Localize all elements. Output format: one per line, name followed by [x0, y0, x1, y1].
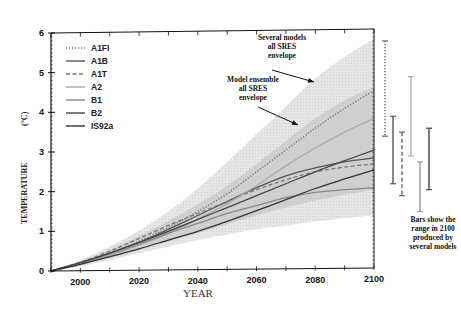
- annotation-text: envelope: [239, 93, 268, 102]
- annotation-text: Model ensemble: [227, 75, 280, 84]
- annotation-text: envelope: [268, 51, 297, 60]
- annotation-text: range in 2100: [411, 224, 455, 233]
- y-tick-label: 6: [39, 28, 44, 38]
- y-tick-label: 4: [39, 107, 44, 117]
- x-tick-label: 2080: [305, 275, 325, 285]
- y-tick-label: 5: [39, 68, 44, 78]
- x-tick-label: 2060: [247, 275, 267, 285]
- x-tick-label: 2020: [129, 276, 149, 286]
- y-axis-unit: (°C): [20, 111, 29, 126]
- x-tick-label: 2000: [70, 277, 90, 287]
- x-axis-title: YEAR: [183, 287, 214, 299]
- legend-label-b1: B1: [91, 95, 102, 105]
- legend-label-a1t: A1T: [91, 69, 108, 79]
- legend-label-b2: B2: [91, 108, 102, 118]
- legend-label-a2: A2: [91, 82, 102, 92]
- legend: A1FIA1BA1TA2B1B2IS92a: [66, 43, 113, 131]
- x-axis-line: [51, 268, 374, 271]
- legend-label-is92a: IS92a: [91, 121, 113, 131]
- temperature-projection-chart: 0123456200020202040206020802100 A1FIA1BA…: [0, 0, 461, 312]
- annotation-text: Bars show the: [410, 215, 456, 224]
- arrowhead-icon: [308, 78, 314, 83]
- annotation-text: all SRES: [268, 42, 297, 51]
- y-tick-label: 1: [39, 226, 44, 236]
- annotation-text: produced by: [413, 233, 453, 242]
- y-axis-title: TEMPERATURE: [20, 162, 29, 224]
- annotation-text: Several models: [258, 33, 306, 42]
- y-tick-label: 2: [39, 187, 44, 197]
- annotation-text: several models: [410, 242, 457, 251]
- x-tick-label: 2100: [364, 274, 384, 284]
- y-tick-label: 3: [39, 147, 44, 157]
- legend-label-a1b: A1B: [91, 56, 108, 66]
- y-tick-label: 0: [39, 266, 44, 276]
- legend-label-a1fi: A1FI: [91, 43, 109, 53]
- range-bars-2100: [382, 41, 432, 212]
- x-tick-label: 2040: [188, 276, 208, 286]
- annotation-text: all SRES: [239, 84, 268, 93]
- top-axis-line: [51, 29, 374, 33]
